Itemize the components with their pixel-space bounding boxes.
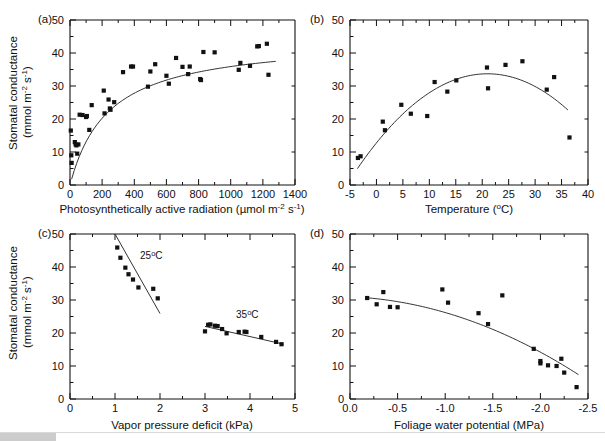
data-point: [409, 112, 413, 116]
footer-divider: [0, 432, 605, 441]
svg-text:1000: 1000: [218, 188, 242, 200]
y-title-line2: (mmol m-2 s-1): [20, 66, 33, 138]
panel-d-data-points: [365, 287, 579, 389]
panel-d-x-ticklabels: 0.0 -0.5 -1.0 -1.5 -2.0 -2.5: [342, 402, 597, 414]
svg-text:0: 0: [67, 188, 73, 200]
data-point: [112, 100, 116, 104]
panel-b-x-ticklabels: -5 0 5 10 15 20 25 30 35 40: [345, 188, 594, 200]
data-point: [485, 65, 489, 69]
data-point: [486, 322, 490, 326]
data-point: [396, 305, 400, 309]
svg-text:10: 10: [332, 146, 344, 158]
data-point: [237, 68, 241, 72]
svg-text:20: 20: [52, 327, 64, 339]
svg-text:30: 30: [529, 188, 541, 200]
svg-text:25: 25: [503, 188, 515, 200]
svg-text:40: 40: [52, 261, 64, 273]
svg-text:-1.5: -1.5: [483, 402, 502, 414]
svg-text:0: 0: [373, 188, 379, 200]
data-point: [148, 69, 152, 73]
panel-b-data-points: [356, 59, 572, 160]
panel-c-letter: (c): [38, 227, 52, 239]
data-point: [562, 371, 566, 375]
panel-a-letter: (a): [38, 13, 52, 25]
panel-d-letter: (d): [310, 227, 324, 239]
data-point: [90, 103, 94, 107]
data-point: [75, 152, 79, 156]
data-point: [476, 311, 480, 315]
panel-c-y-ticklabels: 0 10 20 30 40 50: [52, 228, 64, 405]
data-point: [164, 74, 168, 78]
panel-d-x-ticks: [350, 234, 588, 399]
panel-b-fit-curve: [357, 74, 568, 169]
panel-d-x-axis-title: Foliage water potential (MPa): [394, 419, 544, 431]
panel-d-svg: (d): [300, 210, 605, 441]
svg-text:-0.5: -0.5: [388, 402, 407, 414]
y-title-line1: Stomatal conductance: [7, 36, 19, 150]
panel-b-y-ticks: [350, 20, 588, 185]
svg-text:-2.5: -2.5: [579, 402, 598, 414]
data-point: [266, 73, 270, 77]
panel-a-y-axis-title: Stomatal conductance (mmol m-2 s-1): [7, 36, 33, 150]
data-point: [76, 142, 80, 146]
data-point: [70, 161, 74, 165]
footer-chip: [0, 433, 56, 441]
data-point: [265, 42, 269, 46]
svg-text:15: 15: [450, 188, 462, 200]
data-point: [131, 64, 135, 68]
data-point: [445, 90, 449, 94]
y-title-line2: (mmol m-2 s-1): [20, 276, 33, 348]
data-point: [108, 108, 112, 112]
data-point: [381, 120, 385, 124]
panel-d-axes: [350, 234, 588, 399]
data-point: [85, 114, 89, 118]
panel-b-svg: (b): [300, 0, 605, 220]
svg-text:20: 20: [52, 113, 64, 125]
panel-d-y-ticklabels: 0 10 20 30 40 50: [332, 228, 344, 405]
data-point: [559, 357, 563, 361]
svg-text:40: 40: [332, 47, 344, 59]
svg-text:1: 1: [112, 402, 118, 414]
panel-a-y-ticklabels: 0 10 20 30 40 50: [52, 14, 64, 191]
data-point: [279, 342, 283, 346]
data-point: [106, 97, 110, 101]
data-point: [208, 322, 212, 326]
svg-text:0.0: 0.0: [342, 402, 357, 414]
data-point: [552, 75, 556, 79]
data-point: [538, 361, 542, 365]
data-point: [115, 245, 119, 249]
svg-text:20: 20: [332, 327, 344, 339]
data-point: [146, 85, 150, 89]
data-point: [248, 64, 252, 68]
data-point: [446, 301, 450, 305]
svg-text:-5: -5: [345, 188, 355, 200]
svg-text:5: 5: [400, 188, 406, 200]
svg-text:600: 600: [157, 188, 175, 200]
panel-c-annotation-25c: 25oC: [140, 249, 163, 261]
svg-text:-2.0: -2.0: [531, 402, 550, 414]
svg-text:50: 50: [332, 14, 344, 26]
svg-text:10: 10: [332, 360, 344, 372]
data-point: [188, 64, 192, 68]
svg-text:5: 5: [292, 402, 298, 414]
svg-text:10: 10: [423, 188, 435, 200]
data-point: [220, 327, 224, 331]
panel-a-data-points: [69, 42, 271, 165]
data-point: [121, 70, 125, 74]
svg-text:10: 10: [52, 360, 64, 372]
panel-a: Stomatal conductance (mmol m-2 s-1) (a): [0, 0, 310, 220]
panel-b-x-ticks: [350, 20, 588, 185]
data-point: [500, 293, 504, 297]
data-point: [102, 89, 106, 93]
panel-c: Stomatal conductance (mmol m-2 s-1) (c): [0, 210, 310, 441]
data-point: [225, 331, 229, 335]
data-point: [151, 287, 155, 291]
svg-text:50: 50: [52, 14, 64, 26]
data-point: [545, 88, 549, 92]
svg-text:40: 40: [582, 188, 594, 200]
panel-c-annotation-35c: 35oC: [236, 308, 259, 320]
data-point: [167, 82, 171, 86]
data-point: [118, 256, 122, 260]
data-point: [153, 62, 157, 66]
data-point: [136, 285, 140, 289]
